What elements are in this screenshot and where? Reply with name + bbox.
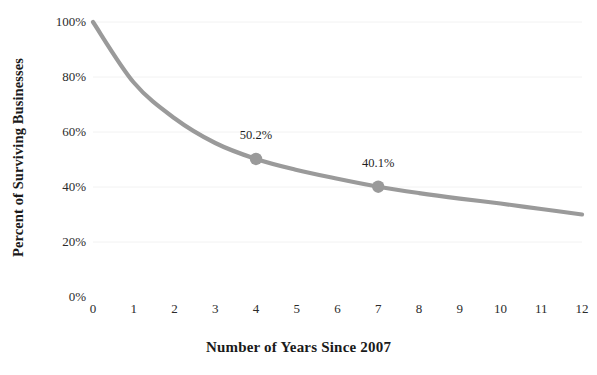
data-point-marker bbox=[372, 181, 384, 193]
data-point-marker bbox=[250, 153, 262, 165]
survival-curve bbox=[93, 22, 582, 215]
plot-area bbox=[0, 0, 597, 375]
data-point-label: 50.2% bbox=[240, 128, 272, 143]
data-point-label: 40.1% bbox=[362, 156, 394, 171]
chart-container: Percent of Surviving Businesses 0%20%40%… bbox=[0, 0, 597, 375]
x-axis-title: Number of Years Since 2007 bbox=[0, 339, 597, 356]
gridlines bbox=[93, 22, 582, 242]
